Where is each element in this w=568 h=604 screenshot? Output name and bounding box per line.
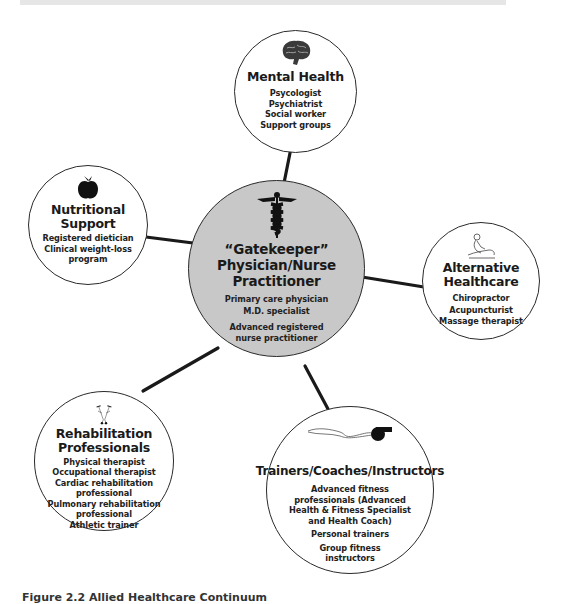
node-item: Registered dietician	[42, 233, 133, 244]
connector-alternative-healthcare	[362, 277, 424, 287]
massage-icon	[465, 233, 497, 261]
figure-caption: Figure 2.2 Allied Healthcare Continuum	[22, 591, 267, 604]
node-item: Personal trainers	[311, 529, 389, 540]
node-mental-health: Mental Health Psycologist Psychiatrist S…	[234, 30, 357, 153]
node-item: Psycologist	[270, 88, 321, 99]
crutches-icon	[91, 405, 117, 425]
node-item: Pulmonary rehabilitation	[48, 499, 161, 510]
node-item: Acupuncturist	[449, 305, 512, 317]
node-title: Healthcare	[443, 275, 518, 289]
node-item: professional	[76, 509, 132, 520]
node-item: Occupational therapist	[52, 467, 155, 478]
connector-mental-health	[284, 148, 291, 183]
node-title: Support	[60, 217, 115, 231]
node-item: nurse practitioner	[236, 333, 318, 344]
node-item: Health & Fitness Specialist	[289, 505, 411, 516]
node-item: Physical therapist	[63, 457, 144, 468]
node-item: Chiropractor	[453, 293, 510, 305]
connector-trainers	[305, 366, 328, 409]
node-rehabilitation: Rehabilitation Professionals Physical th…	[34, 391, 174, 531]
node-title: Nutritional	[51, 203, 125, 217]
node-item: Support groups	[260, 120, 331, 131]
node-item: Massage therapist	[439, 316, 523, 328]
apple-icon	[77, 175, 99, 201]
node-item: Advanced registered	[229, 322, 323, 333]
node-title: Alternative	[443, 261, 520, 275]
node-item: professionals (Advanced	[294, 495, 405, 506]
node-gatekeeper: “Gatekeeper” Physician/Nurse Practitione…	[188, 180, 365, 357]
brain-icon	[279, 39, 313, 67]
node-item: Advanced fitness	[311, 484, 389, 495]
node-title: Trainers/Coaches/Instructors	[256, 464, 445, 478]
node-item: Social worker	[265, 109, 326, 120]
node-item: Psychiatrist	[269, 99, 322, 110]
node-title: Mental Health	[247, 70, 344, 84]
connector-nutritional-support	[146, 237, 193, 243]
node-item: program	[69, 254, 108, 265]
connector-rehabilitation	[143, 348, 218, 391]
caduceus-icon	[255, 191, 299, 239]
node-item: professional	[76, 488, 132, 499]
node-title: Practitioner	[232, 273, 320, 289]
node-title: Rehabilitation	[56, 427, 153, 441]
node-item: instructors	[325, 553, 375, 564]
node-item: Primary care physician	[225, 293, 328, 305]
node-item: Clinical weight-loss	[44, 244, 131, 255]
whistle-icon	[306, 424, 394, 442]
node-title: Physician/Nurse	[217, 257, 336, 273]
node-item: Cardiac rehabilitation	[55, 478, 153, 489]
node-trainers: Trainers/Coaches/Instructors Advanced fi…	[266, 406, 434, 574]
node-item: M.D. specialist	[243, 305, 309, 317]
node-nutritional-support: Nutritional Support Registered dietician…	[28, 165, 148, 285]
node-alternative-healthcare: Alternative Healthcare Chiropractor Acup…	[422, 222, 540, 340]
node-item: and Health Coach)	[308, 516, 391, 527]
node-item: Athletic trainer	[70, 520, 139, 531]
node-title: Professionals	[58, 441, 150, 455]
node-item: Group fitness	[319, 543, 380, 554]
node-title: “Gatekeeper”	[225, 241, 329, 257]
